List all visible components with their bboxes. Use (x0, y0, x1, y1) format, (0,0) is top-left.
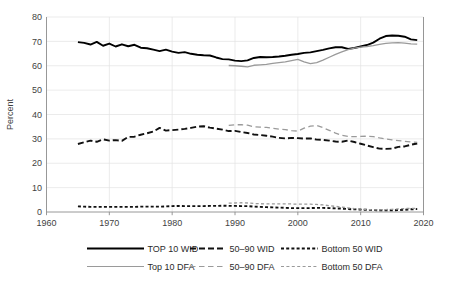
legend-label-50-90-wid[interactable]: 50–90 WID (230, 244, 276, 254)
y-tick-label: 60 (32, 61, 42, 71)
y-tick-labels-group: 01020304050607080 (32, 12, 42, 217)
x-tick-label: 2020 (413, 218, 433, 228)
x-tick-label: 1970 (99, 218, 119, 228)
legend-label-bottom-50-dfa[interactable]: Bottom 50 DFA (322, 262, 383, 272)
x-tick-label: 1990 (225, 218, 245, 228)
legend-label-top-10-dfa[interactable]: Top 10 DFA (148, 262, 195, 272)
line-chart: 01020304050607080 1960197019801990200020… (0, 0, 449, 283)
y-tick-label: 50 (32, 85, 42, 95)
y-tick-label: 30 (32, 134, 42, 144)
chart-container: 01020304050607080 1960197019801990200020… (0, 0, 449, 283)
y-tick-label: 40 (32, 110, 42, 120)
y-tick-label: 80 (32, 12, 42, 22)
y-axis-title: Percent (5, 98, 15, 130)
y-tick-label: 20 (32, 158, 42, 168)
y-tick-label: 70 (32, 37, 42, 47)
y-tick-label: 0 (37, 207, 42, 217)
x-tick-label: 2010 (351, 218, 371, 228)
legend-label-50-90-dfa[interactable]: 50–90 DFA (230, 262, 275, 272)
y-tick-label: 10 (32, 183, 42, 193)
chart-background (0, 0, 449, 283)
legend-label-bottom-50-wid[interactable]: Bottom 50 WID (322, 244, 384, 254)
x-tick-label: 1960 (36, 218, 56, 228)
x-tick-label: 1980 (162, 218, 182, 228)
y-axis-title-group: Percent (5, 98, 15, 130)
x-tick-label: 2000 (288, 218, 308, 228)
